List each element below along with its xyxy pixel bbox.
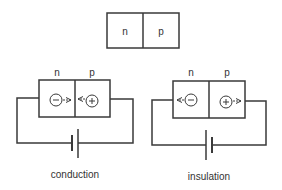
conduction-p-label: p	[89, 67, 95, 78]
conduction-n-label: n	[54, 67, 60, 78]
pn-junction-diagram: n p n p conduction n p	[0, 0, 282, 190]
insulation-p-label: p	[224, 67, 230, 78]
conduction-diagram: n p conduction	[17, 67, 133, 180]
insulation-diagram: n p insulation	[152, 67, 266, 182]
insulation-caption: insulation	[188, 171, 230, 182]
insulation-n-label: n	[188, 67, 194, 78]
conduction-wire-left	[17, 98, 72, 143]
conduction-caption: conduction	[51, 169, 99, 180]
conduction-wire-right	[78, 99, 133, 143]
top-junction: n p	[107, 13, 179, 48]
insulation-wire-right	[212, 101, 266, 145]
top-p-label: p	[158, 26, 164, 37]
insulation-wire-left	[152, 100, 206, 145]
top-n-label: n	[122, 26, 128, 37]
